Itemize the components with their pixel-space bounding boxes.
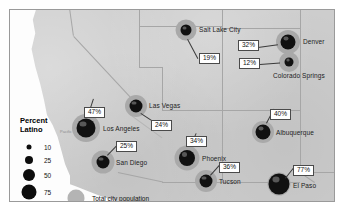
city-label-las-vegas: Las Vegas bbox=[149, 102, 180, 109]
callout-san-diego[interactable]: 25% bbox=[116, 141, 137, 152]
legend: Percent Latino 10 25 50 75 100 Total cit… bbox=[20, 117, 48, 135]
border-nv-ut-step bbox=[139, 67, 163, 68]
city-label-tucson: Tucson bbox=[219, 178, 241, 185]
border-nv-ut bbox=[139, 9, 140, 67]
percent-core bbox=[97, 156, 110, 169]
callout-denver[interactable]: 32% bbox=[238, 40, 259, 51]
legend-value-75: 75 bbox=[44, 188, 51, 195]
percent-core bbox=[77, 119, 96, 138]
border-ca-or bbox=[69, 9, 74, 36]
border-co-ks bbox=[300, 9, 301, 110]
callout-salt-lake-city[interactable]: 19% bbox=[199, 53, 220, 64]
percent-core bbox=[179, 150, 195, 166]
callout-los-angeles[interactable]: 47% bbox=[84, 107, 105, 118]
legend-swatch-10 bbox=[27, 144, 32, 149]
leader-line-salt-lake-city bbox=[187, 39, 198, 59]
city-label-colorado-springs: Colorado Springs bbox=[273, 72, 325, 79]
pacific-label: Pacific bbox=[60, 129, 72, 134]
callout-tucson[interactable]: 36% bbox=[219, 162, 240, 173]
border-nm-tx bbox=[300, 110, 301, 172]
pacific-ocean-area bbox=[9, 9, 70, 202]
map-canvas[interactable]: Pacific Salt Lake City 19% Denver 32% Co… bbox=[9, 9, 335, 202]
city-label-los-angeles: Los Angeles bbox=[103, 125, 140, 132]
percent-core bbox=[256, 125, 271, 140]
border-ut-az bbox=[162, 110, 222, 111]
callout-phoenix[interactable]: 34% bbox=[186, 136, 207, 147]
callout-las-vegas[interactable]: 24% bbox=[151, 120, 172, 131]
legend-value-50: 50 bbox=[44, 171, 51, 178]
legend-population-swatch bbox=[68, 190, 85, 203]
percent-core bbox=[181, 25, 192, 36]
legend-swatch-75 bbox=[22, 184, 37, 199]
percent-core bbox=[130, 100, 143, 113]
legend-title: Percent Latino bbox=[20, 117, 48, 135]
legend-swatch-25 bbox=[25, 156, 33, 164]
city-label-denver: Denver bbox=[303, 38, 325, 45]
percent-core bbox=[281, 35, 296, 50]
border-ut-co bbox=[222, 9, 223, 111]
legend-title-line-2: Latino bbox=[20, 126, 48, 135]
leader-line-denver bbox=[258, 44, 278, 48]
legend-value-10: 10 bbox=[44, 143, 51, 150]
callout-albuquerque[interactable]: 40% bbox=[270, 109, 291, 120]
callout-colorado-springs[interactable]: 12% bbox=[239, 58, 260, 69]
city-label-salt-lake-city: Salt Lake City bbox=[199, 26, 241, 33]
percent-core bbox=[285, 58, 294, 67]
city-label-phoenix: Phoenix bbox=[202, 155, 226, 162]
city-label-el-paso: El Paso bbox=[293, 182, 316, 189]
border-ca-mexico bbox=[118, 172, 163, 183]
legend-value-25: 25 bbox=[44, 156, 51, 163]
percent-core bbox=[200, 175, 213, 188]
legend-population-label: Total city population bbox=[92, 195, 149, 202]
city-label-albuquerque: Albuquerque bbox=[276, 129, 314, 136]
callout-el-paso[interactable]: 77% bbox=[293, 165, 314, 176]
city-label-san-diego: San Diego bbox=[116, 159, 147, 166]
legend-swatch-50 bbox=[23, 169, 35, 181]
leader-line-colorado-springs bbox=[260, 63, 280, 65]
